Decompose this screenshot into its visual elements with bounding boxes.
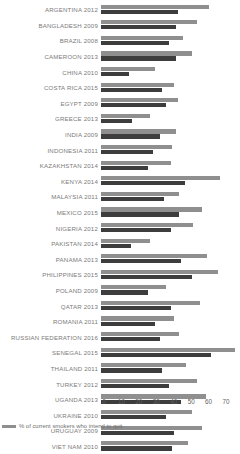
category-label: KAZAKHSTAN 2014	[0, 162, 101, 169]
bar-tried-to-quit	[101, 290, 148, 294]
category-label: TURKEY 2012	[0, 381, 101, 388]
chart-row: CAMEROON 2013	[0, 49, 240, 65]
bar-tried-to-quit	[101, 244, 131, 248]
chart-row: ARGENTINA 2012	[0, 2, 240, 18]
bar-group	[101, 284, 237, 297]
chart-legend: % of current smokers who intend to quit	[2, 423, 122, 430]
category-label: PAKISTAN 2014	[0, 240, 101, 247]
bar-tried-to-quit	[101, 41, 169, 45]
category-label: RUSSIAN FEDERATION 2016	[0, 334, 101, 341]
bar-group	[101, 97, 237, 110]
bar-group	[101, 362, 237, 375]
bar-intend-to-quit	[101, 254, 207, 258]
chart-row: THAILAND 2011	[0, 361, 240, 377]
bar-intend-to-quit	[101, 363, 186, 367]
chart-row: NIGERIA 2012	[0, 220, 240, 236]
bar-intend-to-quit	[101, 176, 220, 180]
bar-tried-to-quit	[101, 103, 166, 107]
bar-intend-to-quit	[101, 316, 174, 320]
bar-group	[101, 378, 237, 391]
bar-group	[101, 190, 237, 203]
axis-tick-label: 70	[223, 398, 230, 405]
bar-intend-to-quit	[101, 285, 166, 289]
bar-group	[101, 19, 237, 32]
bar-group	[101, 300, 237, 313]
axis-tick-label: 40	[170, 398, 177, 405]
bar-group	[101, 346, 237, 359]
bar-intend-to-quit	[101, 36, 183, 40]
bar-intend-to-quit	[101, 207, 202, 211]
bar-group	[101, 315, 237, 328]
chart-row: INDONESIA 2011	[0, 142, 240, 158]
bar-tried-to-quit	[101, 134, 160, 138]
category-label: BRAZIL 2008	[0, 37, 101, 44]
category-label: NIGERIA 2012	[0, 225, 101, 232]
chart-row: POLAND 2009	[0, 283, 240, 299]
bar-tried-to-quit	[101, 415, 166, 419]
bar-tried-to-quit	[101, 212, 179, 216]
bar-intend-to-quit	[101, 441, 188, 445]
chart-row: PANAMA 2013	[0, 252, 240, 268]
category-label: KENYA 2014	[0, 178, 101, 185]
category-label: VIET NAM 2010	[0, 443, 101, 450]
category-label: POLAND 2009	[0, 287, 101, 294]
bar-intend-to-quit	[101, 51, 192, 55]
bar-intend-to-quit	[101, 239, 150, 243]
bar-tried-to-quit	[101, 181, 185, 185]
category-label: SENEGAL 2015	[0, 349, 101, 356]
chart-row: TURKEY 2012	[0, 376, 240, 392]
bar-intend-to-quit	[101, 348, 235, 352]
bar-group	[101, 112, 237, 125]
bar-group	[101, 409, 237, 422]
bar-tried-to-quit	[101, 384, 169, 388]
bar-group	[101, 253, 237, 266]
bar-group	[101, 206, 237, 219]
bar-intend-to-quit	[101, 20, 197, 24]
bar-group	[101, 440, 237, 453]
chart-row: QATAR 2013	[0, 298, 240, 314]
chart-row: SENEGAL 2015	[0, 345, 240, 361]
bar-tried-to-quit	[101, 275, 192, 279]
bar-group	[101, 3, 237, 16]
bar-intend-to-quit	[101, 83, 174, 87]
category-label: MEXICO 2015	[0, 209, 101, 216]
bar-tried-to-quit	[101, 56, 176, 60]
bar-tried-to-quit	[101, 88, 162, 92]
bar-group	[101, 50, 237, 63]
bar-group	[101, 268, 237, 281]
chart-row: EGYPT 2009	[0, 96, 240, 112]
category-label: EGYPT 2009	[0, 100, 101, 107]
bar-intend-to-quit	[101, 332, 179, 336]
bar-intend-to-quit	[101, 410, 192, 414]
bar-intend-to-quit	[101, 114, 150, 118]
category-label: BANGLADESH 2009	[0, 22, 101, 29]
chart-row: GREECE 2013	[0, 111, 240, 127]
legend-label: % of current smokers who intend to quit	[19, 423, 122, 430]
bar-tried-to-quit	[101, 25, 176, 29]
bar-tried-to-quit	[101, 259, 181, 263]
axis-tick-label: 10	[118, 398, 125, 405]
bar-intend-to-quit	[101, 379, 197, 383]
bar-group	[101, 159, 237, 172]
chart-row: PHILIPPINES 2015	[0, 267, 240, 283]
bar-tried-to-quit	[101, 197, 164, 201]
axis-tick-label: 60	[205, 398, 212, 405]
bar-group	[101, 175, 237, 188]
category-label: CAMEROON 2013	[0, 53, 101, 60]
category-label: INDIA 2009	[0, 131, 101, 138]
bar-group	[101, 66, 237, 79]
category-label: CHINA 2010	[0, 69, 101, 76]
bar-group	[101, 222, 237, 235]
bar-group	[101, 128, 237, 141]
bar-intend-to-quit	[101, 145, 172, 149]
bar-tried-to-quit	[101, 431, 174, 435]
bar-tried-to-quit	[101, 368, 162, 372]
chart-row: INDIA 2009	[0, 127, 240, 143]
bar-group	[101, 331, 237, 344]
bar-intend-to-quit	[101, 270, 218, 274]
chart-row: MEXICO 2015	[0, 205, 240, 221]
bar-tried-to-quit	[101, 322, 155, 326]
chart-row: PAKISTAN 2014	[0, 236, 240, 252]
chart-row: VIET NAM 2010	[0, 439, 240, 454]
bar-group	[101, 237, 237, 250]
